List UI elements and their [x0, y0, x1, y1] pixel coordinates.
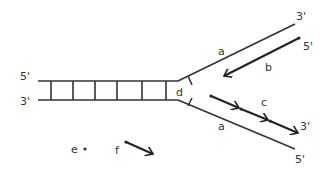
b-arrow	[224, 38, 299, 76]
label-d: d	[176, 86, 183, 99]
e-dot	[83, 147, 86, 150]
parental-duplex	[38, 81, 178, 100]
label-3prime-left: 3'	[20, 95, 30, 108]
leading-template-strand-a	[178, 24, 295, 81]
label-5prime-b-end: 5'	[303, 40, 313, 53]
label-3prime-c-end: 3'	[300, 120, 310, 133]
label-5prime-left: 5'	[20, 70, 30, 83]
template-strands	[178, 24, 295, 149]
c-fragment-3	[270, 121, 298, 133]
replication-fork-diagram: 5' 3' 3' 5' 3' 5' a a b c d e f	[0, 0, 327, 172]
f-arrow-group	[124, 140, 153, 154]
label-b: b	[265, 61, 272, 74]
label-c: c	[261, 96, 267, 109]
label-3prime-top-right: 3'	[296, 10, 306, 23]
c-fragment-2	[241, 109, 268, 120]
label-a-bottom: a	[218, 120, 225, 133]
c-fragment-1	[211, 96, 239, 108]
strand-b-arrow	[224, 36, 301, 76]
helicase-tick-top	[188, 76, 192, 85]
f-arrow	[126, 142, 153, 154]
label-5prime-bottom-right: 5'	[295, 153, 305, 166]
label-a-top: a	[218, 45, 225, 58]
label-e: e	[71, 143, 78, 156]
label-f: f	[115, 144, 120, 157]
